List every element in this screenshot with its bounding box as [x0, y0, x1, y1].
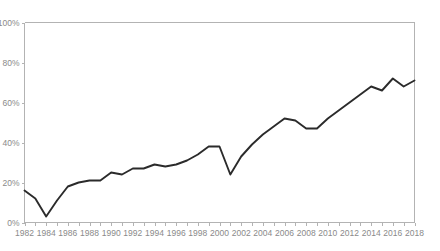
x-axis-tick-label: 1998 — [188, 228, 207, 238]
x-axis-tick-label: 2000 — [210, 228, 229, 238]
line-chart: 0%20%40%60%80%100% 198219841986198819901… — [0, 0, 440, 251]
y-axis-tick-labels: 0%20%40%60%80%100% — [0, 18, 20, 228]
x-axis-tick-labels: 1982198419861988199019921994199619982000… — [15, 228, 424, 238]
x-axis-tick-label: 1996 — [167, 228, 186, 238]
x-axis-tick-label: 1988 — [80, 228, 99, 238]
x-axis-tick-label: 1984 — [37, 228, 56, 238]
chart-canvas: 0%20%40%60%80%100% 198219841986198819901… — [0, 0, 440, 251]
x-axis-tick-label: 2004 — [253, 228, 272, 238]
x-axis-tick-label: 1986 — [58, 228, 77, 238]
x-axis-tick-label: 2018 — [405, 228, 424, 238]
x-axis-tick-label: 1994 — [145, 228, 164, 238]
x-axis-tick-label: 2016 — [383, 228, 402, 238]
x-axis-tick-label: 1982 — [15, 228, 34, 238]
y-axis-tick-label: 40% — [2, 138, 19, 148]
data-series-line — [25, 79, 415, 217]
y-axis-tick-label: 100% — [0, 18, 20, 28]
y-axis-tick-label: 20% — [2, 178, 19, 188]
x-axis-tick-label: 2008 — [297, 228, 316, 238]
x-axis-tick-label: 1992 — [123, 228, 142, 238]
y-axis-tick-label: 0% — [7, 218, 20, 228]
x-axis — [25, 223, 416, 226]
x-axis-tick-label: 2006 — [275, 228, 294, 238]
x-axis-tick-label: 2002 — [232, 228, 251, 238]
x-axis-tick-label: 2014 — [362, 228, 381, 238]
x-axis-tick-label: 2012 — [340, 228, 359, 238]
x-axis-tick-label: 2010 — [318, 228, 337, 238]
y-axis — [22, 23, 415, 224]
data-line-path — [25, 79, 415, 217]
y-axis-tick-label: 60% — [2, 98, 19, 108]
y-axis-tick-label: 80% — [2, 58, 19, 68]
x-axis-tick-label: 1990 — [102, 228, 121, 238]
